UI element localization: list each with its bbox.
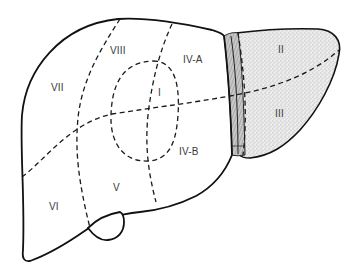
- label-segment-iii: III: [275, 108, 284, 119]
- label-segment-v: V: [113, 182, 120, 193]
- label-segment-vii: VII: [51, 82, 64, 93]
- left-lobe: [236, 29, 340, 158]
- label-segment-viii: VIII: [110, 45, 126, 56]
- label-segment-vi: VI: [49, 201, 59, 212]
- label-segment-i: I: [158, 87, 161, 98]
- boundary-middle-hepatic: [147, 24, 172, 202]
- label-segment-iv-b: IV-B: [179, 146, 199, 157]
- liver-segments-diagram: VIII VII I IV-A IV-B V VI II III: [0, 0, 358, 271]
- label-segment-ii: II: [278, 44, 284, 55]
- label-segment-iv-a: IV-A: [183, 54, 203, 65]
- gallbladder: [88, 212, 124, 240]
- boundary-caudate-oval: [111, 61, 178, 161]
